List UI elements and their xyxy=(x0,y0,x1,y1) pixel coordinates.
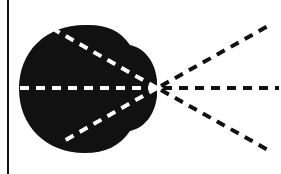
outer-ray-upper xyxy=(161,26,268,86)
outer-dashed-rays xyxy=(161,26,279,150)
diagram-canvas xyxy=(0,0,281,174)
outer-ray-lower xyxy=(161,90,268,150)
